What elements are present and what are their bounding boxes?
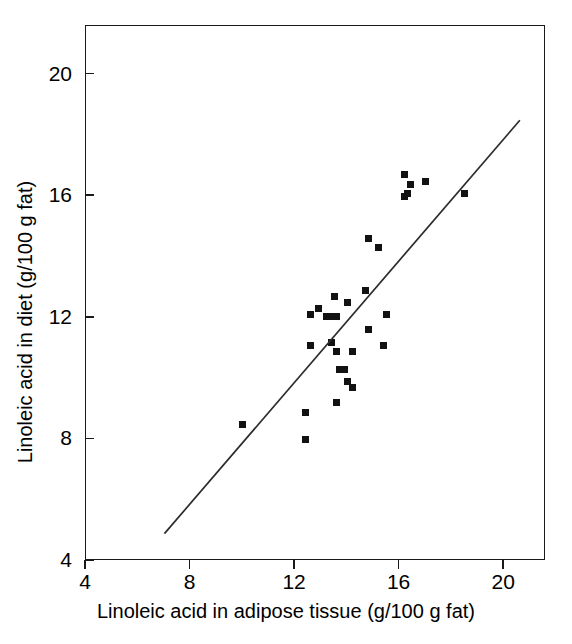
data-point (362, 287, 369, 294)
plot-area (85, 25, 545, 560)
x-tick-label: 20 (491, 570, 514, 594)
data-point (344, 299, 351, 306)
y-tick-label: 12 (49, 305, 72, 329)
data-point (461, 190, 468, 197)
x-tick-label: 12 (282, 570, 305, 594)
x-tick-label: 16 (387, 570, 410, 594)
y-tick-mark (85, 73, 94, 75)
data-point (349, 348, 356, 355)
x-tick-label: 8 (184, 570, 196, 594)
scatter-plot-figure: Linoleic acid in diet (g/100 g fat) 4812… (0, 0, 572, 644)
data-point (365, 235, 372, 242)
x-axis-title: Linoleic acid in adipose tissue (g/100 g… (0, 600, 572, 623)
data-point (422, 178, 429, 185)
x-tick-mark (293, 560, 295, 569)
y-tick-label: 16 (49, 183, 72, 207)
data-point (407, 181, 414, 188)
data-point (341, 366, 348, 373)
data-point (307, 311, 314, 318)
y-tick-label: 20 (49, 62, 72, 86)
y-axis-title-container: Linoleic acid in diet (g/100 g fat) (8, 0, 42, 644)
data-point (333, 313, 340, 320)
data-point (331, 293, 338, 300)
data-point (365, 326, 372, 333)
x-tick-mark (502, 560, 504, 569)
y-tick-mark (85, 438, 94, 440)
data-point (302, 409, 309, 416)
data-point (401, 171, 408, 178)
y-tick-mark (85, 316, 94, 318)
data-point (315, 305, 322, 312)
y-tick-mark (85, 194, 94, 196)
data-point (307, 342, 314, 349)
y-tick-label: 8 (60, 426, 72, 450)
y-axis-title: Linoleic acid in diet (g/100 g fat) (14, 181, 37, 463)
x-tick-mark (398, 560, 400, 569)
data-point (349, 384, 356, 391)
data-point (239, 421, 246, 428)
data-point (333, 399, 340, 406)
data-point (383, 311, 390, 318)
data-point (375, 244, 382, 251)
x-tick-label: 4 (79, 570, 91, 594)
data-point (302, 436, 309, 443)
data-point (404, 190, 411, 197)
x-tick-mark (84, 560, 86, 569)
y-tick-label: 4 (60, 548, 72, 572)
y-tick-mark (85, 559, 94, 561)
data-point (380, 342, 387, 349)
plot-canvas (86, 26, 544, 559)
data-point (328, 339, 335, 346)
data-point (333, 348, 340, 355)
x-tick-mark (189, 560, 191, 569)
